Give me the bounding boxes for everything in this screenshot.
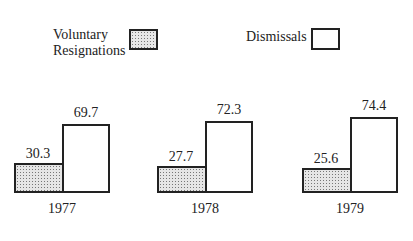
value-label-dismissals-1979: 74.4 xyxy=(350,99,398,113)
bar-dismissals-1979 xyxy=(350,117,398,193)
year-label-1979: 1979 xyxy=(320,202,380,216)
year-label-1978: 1978 xyxy=(175,202,235,216)
value-label-voluntary-1977: 30.3 xyxy=(14,147,62,161)
year-label-1977: 1977 xyxy=(32,202,92,216)
value-label-dismissals-1978: 72.3 xyxy=(205,103,253,117)
legend-label-voluntary-2: Resignations xyxy=(53,43,125,58)
value-label-dismissals-1977: 69.7 xyxy=(62,106,110,120)
value-label-voluntary-1978: 27.7 xyxy=(157,150,205,164)
legend-swatch-voluntary xyxy=(129,29,158,50)
bar-voluntary-1977 xyxy=(14,163,64,193)
legend-swatch-dismissals xyxy=(311,28,340,50)
bar-voluntary-1979 xyxy=(302,168,352,193)
legend-label-dismissals: Dismissals xyxy=(246,29,307,44)
bar-dismissals-1977 xyxy=(62,124,110,193)
bar-voluntary-1978 xyxy=(157,166,207,193)
legend-label-voluntary-1: Voluntary xyxy=(53,27,108,42)
bar-dismissals-1978 xyxy=(205,121,253,193)
value-label-voluntary-1979: 25.6 xyxy=(302,152,350,166)
